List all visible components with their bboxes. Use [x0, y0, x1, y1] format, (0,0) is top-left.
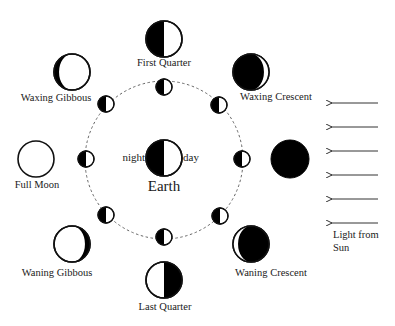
phase-label: First Quarter	[137, 57, 191, 68]
phase-label: Last Quarter	[139, 301, 192, 312]
diagram-canvas: nightdayEarth First QuarterWaxing Cresce…	[0, 0, 395, 326]
phase-full-moon: Full Moon	[15, 141, 60, 190]
moon-icon	[146, 21, 182, 57]
earth-night-label: night	[122, 151, 145, 163]
sunlight-label-line1: Light from	[333, 229, 379, 240]
moon-icon	[233, 226, 269, 262]
moon-icon	[271, 140, 309, 178]
phase-waning-gibbous: Waning Gibbous	[22, 226, 93, 278]
orbit-moon-upper-right	[211, 97, 227, 113]
moon-icon	[233, 54, 269, 90]
phase-first-quarter: First Quarter	[137, 21, 191, 68]
sunlight-arrows: Light fromSun	[331, 103, 379, 253]
phase-label: Waning Crescent	[235, 267, 307, 278]
moon-icon	[18, 141, 54, 177]
orbit-moon-upper-left	[98, 96, 114, 112]
moon-icon	[54, 226, 90, 262]
phase-waning-crescent: Waning Crescent	[233, 226, 307, 278]
phase-last-quarter: Last Quarter	[139, 262, 192, 312]
moon-icon	[54, 54, 90, 90]
phase-waxing-gibbous: Waxing Gibbous	[21, 54, 92, 103]
phase-label: Waxing Crescent	[240, 91, 312, 102]
moon-icon	[146, 262, 182, 298]
orbit-moon-lower-right	[212, 208, 228, 224]
orbit-moon-top	[156, 79, 172, 95]
phase-label: Full Moon	[15, 179, 60, 190]
earth: nightdayEarth	[122, 140, 199, 194]
earth-disc	[146, 140, 182, 176]
sunlight-label-line2: Sun	[333, 242, 350, 253]
phase-label: Waning Gibbous	[22, 267, 93, 278]
phase-label: Waxing Gibbous	[21, 92, 92, 103]
moon-phases-diagram: nightdayEarth First QuarterWaxing Cresce…	[0, 0, 395, 326]
orbit-moon-right	[234, 151, 250, 167]
earth-label: Earth	[148, 178, 181, 194]
phase-waxing-crescent: Waxing Crescent	[233, 54, 312, 102]
orbit-moon-bottom	[156, 229, 172, 245]
orbit-moon-lower-left	[98, 207, 114, 223]
earth-day-label: day	[183, 151, 199, 163]
orbit-moon-left	[78, 151, 94, 167]
phase-new-moon	[271, 140, 309, 178]
